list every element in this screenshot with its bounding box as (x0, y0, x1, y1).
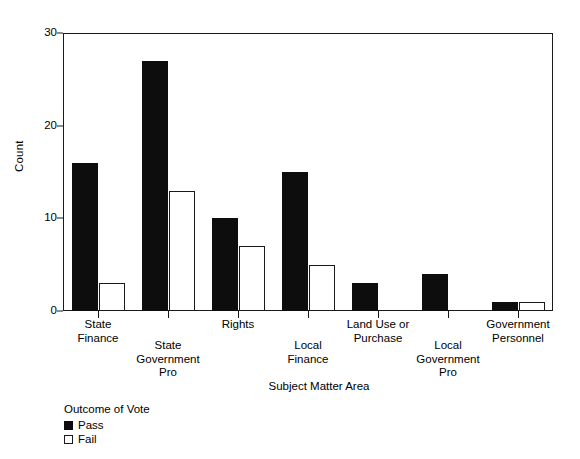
bar-chart: 0 10 20 30 Count State FinanceState Gove… (0, 0, 580, 459)
x-axis-title-text: Subject Matter Area (269, 380, 370, 392)
x-tick-mark (168, 311, 169, 318)
x-tick-mark (518, 311, 519, 318)
x-tick-mark (238, 311, 239, 318)
x-category-label: State Government Pro (136, 339, 199, 380)
x-category-label: Local Finance (288, 339, 329, 366)
x-tick-mark (308, 311, 309, 318)
y-tick-label-10: 10 (44, 213, 57, 225)
legend-label-fail: Fail (78, 432, 97, 446)
x-tick-mark (98, 311, 99, 318)
x-category-label: State Finance (78, 318, 119, 345)
x-tick-mark (448, 311, 449, 318)
x-category-label: Local Government Pro (416, 339, 479, 380)
x-category-label: Land Use or Purchase (347, 318, 410, 345)
x-category-label: Rights (222, 318, 255, 332)
y-tick-label-20: 20 (44, 120, 57, 132)
legend-item-pass: Pass (64, 418, 150, 432)
legend-swatch-pass-icon (64, 421, 73, 430)
y-axis-title: Count (13, 140, 25, 172)
legend-swatch-fail-icon (64, 435, 73, 444)
legend: Outcome of Vote Pass Fail (64, 402, 150, 446)
legend-label-pass: Pass (78, 418, 104, 432)
y-tick-label-30: 30 (44, 27, 57, 39)
legend-item-fail: Fail (64, 432, 150, 446)
x-category-label: Government Personnel (486, 318, 549, 345)
x-axis-title: Subject Matter Area (0, 380, 580, 392)
plot-area (63, 33, 553, 311)
legend-title: Outcome of Vote (64, 402, 150, 416)
x-tick-mark (378, 311, 379, 318)
